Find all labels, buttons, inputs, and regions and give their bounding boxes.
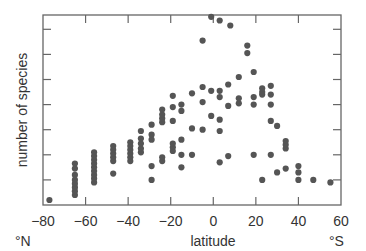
- data-point: [225, 81, 231, 87]
- data-point: [189, 125, 195, 131]
- x-tick-label: −20: [159, 213, 183, 229]
- data-point: [46, 197, 52, 203]
- data-point: [268, 152, 274, 158]
- data-point: [251, 102, 257, 108]
- scatter-chart: −80−60−40−200204060 number of species la…: [0, 0, 366, 251]
- data-point: [217, 94, 223, 100]
- data-point: [295, 177, 301, 183]
- x-tick-label: 20: [248, 213, 264, 229]
- y-axis-label: number of species: [14, 53, 30, 167]
- data-point: [244, 50, 250, 56]
- data-point: [178, 137, 184, 143]
- data-point: [110, 171, 116, 177]
- data-points: [46, 14, 333, 203]
- data-point: [200, 84, 206, 90]
- data-point: [170, 93, 176, 99]
- data-point: [283, 166, 289, 172]
- data-point: [178, 152, 184, 158]
- data-point: [200, 99, 206, 105]
- data-point: [200, 127, 206, 133]
- data-point: [295, 169, 301, 175]
- data-point: [225, 153, 231, 159]
- x-tick-label: 0: [209, 213, 217, 229]
- x-tick-label: 40: [291, 213, 307, 229]
- data-point: [170, 104, 176, 110]
- x-tick-label: 60: [333, 213, 349, 229]
- data-point: [268, 102, 274, 108]
- data-point: [268, 83, 274, 89]
- data-point: [251, 94, 257, 100]
- data-point: [244, 43, 250, 49]
- data-point: [149, 122, 155, 128]
- x-tick-label: −80: [31, 213, 55, 229]
- data-point: [327, 179, 333, 185]
- x-tick-label: −60: [74, 213, 98, 229]
- data-point: [189, 152, 195, 158]
- data-point: [217, 88, 223, 94]
- data-point: [149, 132, 155, 138]
- x-axis-label: latitude: [190, 233, 235, 249]
- data-point: [208, 113, 214, 119]
- x-tick-label: −40: [116, 213, 140, 229]
- data-point: [227, 22, 233, 28]
- data-point: [178, 102, 184, 108]
- data-point: [259, 177, 265, 183]
- data-point: [159, 154, 165, 160]
- data-point: [251, 69, 257, 75]
- data-point: [170, 140, 176, 146]
- north-hemisphere-label: °N: [15, 233, 31, 249]
- data-point: [274, 123, 280, 129]
- data-point: [149, 177, 155, 183]
- data-point: [110, 143, 116, 149]
- data-point: [274, 169, 280, 175]
- data-point: [178, 108, 184, 114]
- data-point: [189, 90, 195, 96]
- data-point: [217, 17, 223, 23]
- data-point: [251, 152, 257, 158]
- data-point: [72, 161, 78, 167]
- data-point: [200, 38, 206, 44]
- data-point: [310, 177, 316, 183]
- data-point: [236, 74, 242, 80]
- data-point: [159, 107, 165, 113]
- data-point: [268, 118, 274, 124]
- data-point: [259, 85, 265, 91]
- data-point: [225, 103, 231, 109]
- data-point: [217, 159, 223, 165]
- data-point: [268, 92, 274, 98]
- data-point: [208, 14, 214, 20]
- data-point: [208, 88, 214, 94]
- data-point: [217, 128, 223, 134]
- data-point: [283, 138, 289, 144]
- data-point: [236, 95, 242, 101]
- data-point: [170, 118, 176, 124]
- data-point: [72, 172, 78, 178]
- data-point: [178, 164, 184, 170]
- data-point: [295, 163, 301, 169]
- data-point: [217, 117, 223, 123]
- plot-frame: [43, 15, 341, 205]
- data-point: [138, 128, 144, 134]
- data-point: [91, 149, 97, 155]
- x-axis-ticks: −80−60−40−200204060: [31, 15, 349, 229]
- data-point: [138, 135, 144, 141]
- south-hemisphere-label: °S: [329, 233, 344, 249]
- data-point: [149, 163, 155, 169]
- data-point: [127, 139, 133, 145]
